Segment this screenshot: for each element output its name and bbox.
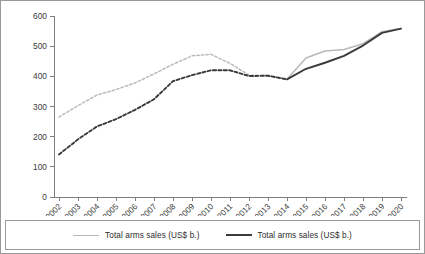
y-axis-tick-label: 100 (33, 162, 47, 172)
x-axis-tick-label: 2008 (158, 202, 178, 216)
x-axis-tick-label: 2012 (234, 202, 254, 216)
series-line-solid-0 (287, 28, 401, 79)
x-axis-tick-label: 2017 (329, 202, 349, 216)
y-axis-tick-label: 200 (33, 132, 47, 142)
line-chart: 0100200300400500600 20022003200420052006… (1, 1, 424, 216)
plot-panel: 0100200300400500600 20022003200420052006… (1, 1, 424, 216)
series-layer (59, 28, 401, 154)
x-axis-tick-label: 2005 (101, 202, 121, 216)
legend-item-label: Total arms sales (US$ b.) (258, 231, 352, 240)
x-axis-tick-label: 2015 (291, 202, 311, 216)
x-axis-tick-label: 2014 (272, 202, 292, 216)
legend-item-label: Total arms sales (US$ b.) (105, 231, 199, 240)
x-axis-tick-label: 2016 (310, 202, 330, 216)
x-axis-tick-label: 2009 (177, 202, 197, 216)
y-axis-tick-label: 300 (33, 102, 47, 112)
x-axis-tick-label: 2011 (216, 202, 235, 216)
x-axis-tick-label: 2018 (348, 202, 368, 216)
x-axis-tick-label: 2004 (82, 202, 102, 216)
y-axis-tick-label: 500 (33, 41, 47, 51)
y-axis-tick-label: 400 (33, 71, 47, 81)
x-axis-tick-label: 2003 (63, 202, 83, 216)
series-line-solid-1 (287, 29, 401, 80)
chart-figure: 0100200300400500600 20022003200420052006… (0, 0, 425, 254)
y-axis-tick-label: 600 (33, 11, 47, 21)
legend-swatch-light-icon (73, 235, 99, 236)
x-axis-tick-label: 2002 (44, 202, 64, 216)
series-line-dashed-0 (59, 54, 287, 117)
legend-item: Total arms sales (US$ b.) (73, 231, 199, 240)
y-axis: 0100200300400500600 (33, 11, 54, 202)
x-axis-tick-label: 2010 (196, 202, 216, 216)
y-axis-tick-label: 0 (42, 192, 47, 202)
x-axis-tick-label: 2019 (367, 202, 387, 216)
chart-legend: Total arms sales (US$ b.) Total arms sal… (5, 220, 420, 250)
x-axis: 2002200320042005200620072008200920102011… (44, 197, 407, 216)
legend-swatch-dark-icon (226, 234, 252, 236)
legend-item: Total arms sales (US$ b.) (226, 231, 352, 240)
x-axis-tick-label: 2006 (120, 202, 140, 216)
x-axis-tick-label: 2020 (386, 202, 406, 216)
x-axis-tick-label: 2007 (139, 202, 159, 216)
series-line-dashed-1 (59, 70, 287, 154)
x-axis-tick-label: 2013 (253, 202, 273, 216)
